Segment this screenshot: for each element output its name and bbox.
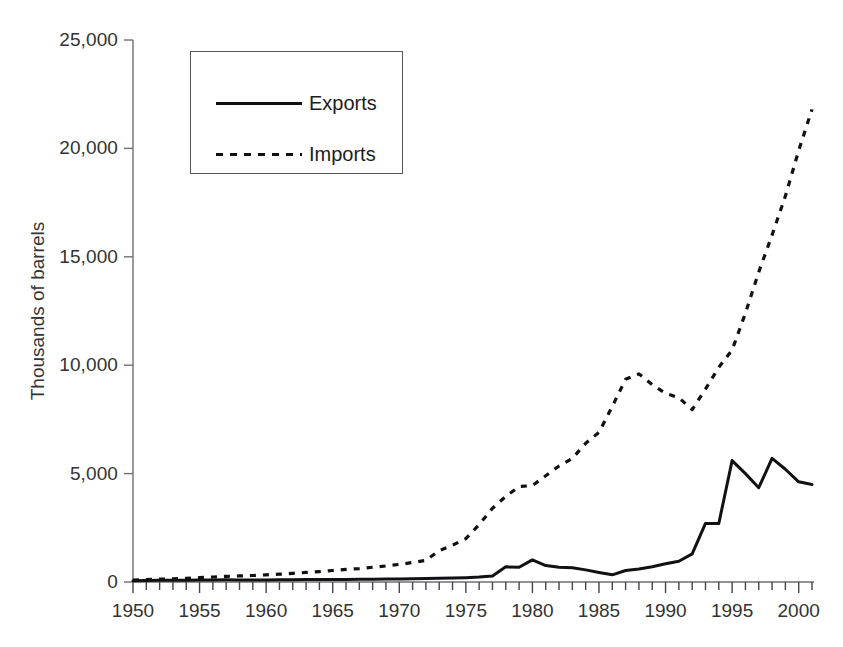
line-chart: Thousands of barrels 05,00010,00015,0002… [0, 0, 843, 647]
series-line-exports [133, 458, 812, 580]
legend-swatch-solid-line-icon [216, 96, 302, 110]
legend-item-imports: Imports [191, 139, 402, 169]
series-line-imports [133, 109, 812, 580]
data-series [133, 109, 812, 580]
legend-label-imports: Imports [309, 143, 376, 166]
legend: Exports Imports [190, 51, 403, 174]
legend-label-exports: Exports [309, 92, 377, 115]
legend-item-exports: Exports [191, 88, 402, 118]
legend-swatch-dashed-line-icon [216, 147, 302, 161]
plot-area [0, 0, 843, 647]
